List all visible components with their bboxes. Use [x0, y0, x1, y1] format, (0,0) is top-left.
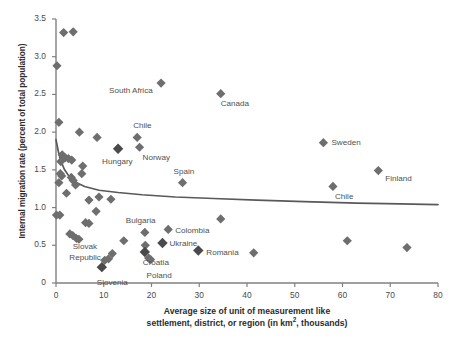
data-point-marker[interactable] — [319, 138, 328, 147]
data-point-marker[interactable] — [343, 236, 352, 245]
scatter-chart-figure: Internal migration rate (percent of tota… — [0, 0, 456, 340]
data-point-label: Ukraine — [169, 239, 197, 248]
x-axis-tick-label: 30 — [187, 290, 211, 300]
y-axis-tick-label: 1.0 — [20, 202, 46, 212]
y-axis-title: Internal migration rate (percent of tota… — [17, 31, 27, 251]
x-axis-tick-label: 40 — [235, 290, 259, 300]
data-point-marker[interactable] — [133, 133, 142, 142]
data-point-marker[interactable] — [164, 225, 173, 234]
data-point-marker[interactable] — [119, 236, 128, 245]
y-axis-tick-label: 3.5 — [20, 13, 46, 23]
x-axis-title-line2-b: , thousands) — [296, 318, 347, 328]
data-point-marker[interactable] — [157, 238, 167, 248]
data-point-marker[interactable] — [92, 133, 101, 142]
data-point-marker[interactable] — [135, 143, 144, 152]
data-point-marker[interactable] — [77, 169, 86, 178]
x-axis-tick-label: 0 — [44, 290, 68, 300]
data-point-marker[interactable] — [75, 128, 84, 137]
data-point-marker[interactable] — [113, 144, 123, 154]
x-axis-tick-label: 80 — [426, 290, 450, 300]
data-point-label: Sweden — [331, 138, 360, 147]
data-point-marker[interactable] — [106, 195, 115, 204]
data-point-label: South Africa — [109, 86, 153, 95]
y-axis-tick-label: 3.0 — [20, 51, 46, 61]
annotation-label: Slovak — [73, 242, 97, 251]
data-point-marker[interactable] — [69, 27, 78, 36]
x-axis-tick-label: 10 — [92, 290, 116, 300]
data-point-label: Spain — [174, 167, 195, 176]
x-axis-tick-label: 50 — [283, 290, 307, 300]
data-point-marker[interactable] — [178, 178, 187, 187]
plot-area — [0, 0, 456, 340]
data-point-label: Romania — [206, 248, 238, 257]
data-point-marker[interactable] — [62, 189, 71, 198]
data-point-marker[interactable] — [216, 89, 225, 98]
x-axis-tick-label: 20 — [140, 290, 164, 300]
data-point-marker[interactable] — [156, 79, 165, 88]
data-point-marker[interactable] — [59, 28, 68, 37]
y-axis-tick-label: 1.5 — [20, 164, 46, 174]
data-point-label: Poland — [147, 271, 172, 280]
y-axis-tick-label: 0 — [20, 277, 46, 287]
data-point-label: Chile — [133, 121, 151, 130]
data-point-label: Finland — [385, 174, 412, 183]
data-point-marker[interactable] — [94, 192, 103, 201]
annotation-label: Republic — [69, 253, 101, 262]
y-axis-tick-label: 2.5 — [20, 88, 46, 98]
data-point-marker[interactable] — [328, 182, 337, 191]
data-point-marker[interactable] — [78, 161, 87, 170]
x-axis-tick-label: 60 — [331, 290, 355, 300]
data-point-label: Hungary — [102, 157, 133, 166]
x-axis-title-line2-a: settlement, district, or region (in km — [147, 318, 293, 328]
data-point-label: Croatia — [143, 258, 169, 267]
x-axis-title: Average size of unit of measurement like… — [56, 305, 438, 329]
data-point-label: Slovenia — [97, 278, 128, 287]
data-point-label: Norway — [143, 153, 170, 162]
data-point-marker[interactable] — [92, 207, 101, 216]
data-point-marker[interactable] — [249, 248, 258, 257]
y-axis-tick-label: 0.5 — [20, 239, 46, 249]
data-point-label: Bulgaria — [126, 216, 156, 225]
data-point-marker[interactable] — [84, 195, 93, 204]
data-point-marker[interactable] — [216, 214, 225, 223]
y-axis-tick-label: 2.0 — [20, 126, 46, 136]
data-point-marker[interactable] — [374, 166, 383, 175]
data-point-marker[interactable] — [52, 61, 61, 70]
data-point-label: Chile — [335, 192, 353, 201]
data-point-label: Canada — [221, 99, 249, 108]
data-point-marker[interactable] — [402, 243, 411, 252]
x-axis-title-line1: Average size of unit of measurement like — [164, 306, 330, 316]
data-point-marker[interactable] — [140, 228, 149, 237]
x-axis-tick-label: 70 — [378, 290, 402, 300]
data-point-label: Colombia — [175, 226, 209, 235]
